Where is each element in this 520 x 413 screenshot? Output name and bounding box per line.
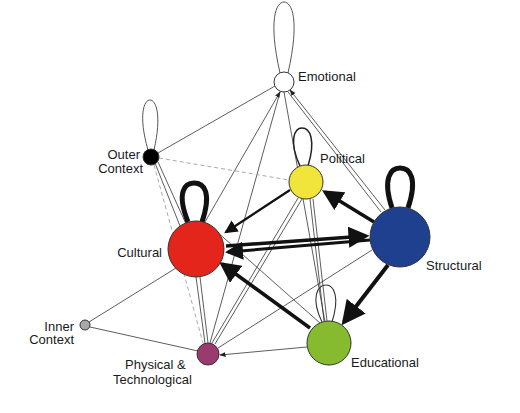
label-structural: Structural [426, 259, 482, 273]
network-diagram [0, 0, 520, 413]
edge-inner-physical [90, 327, 198, 351]
edge-structural-educational [344, 265, 388, 322]
label-physical-2: Technological [113, 373, 192, 387]
node-cultural[interactable] [168, 221, 224, 277]
self-loop-emotional [274, 2, 294, 73]
self-loop-cultural [182, 183, 206, 222]
label-inner-context-2: Context [20, 333, 74, 347]
edge-outer-cultural [155, 163, 180, 226]
edge-political-educational [310, 199, 324, 321]
edge-political-educational-b [313, 199, 327, 321]
edge-educational-physical [220, 347, 307, 355]
edge-outer-emotional [151, 86, 275, 157]
edge-outer-political [159, 158, 289, 180]
edge-structural-political [325, 192, 374, 222]
edge-emotional-physical [210, 92, 280, 343]
label-outer-context-1: Outer [98, 148, 140, 162]
node-emotional[interactable] [274, 72, 294, 92]
node-political[interactable] [289, 165, 323, 199]
thin-edges [89, 86, 385, 355]
node-inner-context[interactable] [80, 320, 90, 330]
node-structural[interactable] [370, 207, 430, 267]
label-emotional: Emotional [298, 70, 356, 84]
node-outer-context[interactable] [143, 149, 159, 165]
node-educational[interactable] [307, 321, 351, 365]
self-loop-educational [316, 285, 336, 322]
label-educational: Educational [351, 356, 419, 370]
edge-educational-cultural [222, 264, 310, 328]
label-physical-1: Physical & [125, 358, 186, 372]
edge-political-physical [212, 198, 298, 343]
node-physical-technological[interactable] [197, 343, 219, 365]
label-cultural: Cultural [100, 246, 162, 260]
edge-cultural-educational-thin [207, 223, 320, 323]
self-loop-structural [388, 168, 413, 208]
edge-cultural-emotional [205, 92, 280, 222]
self-loop-outer-context [143, 100, 158, 150]
label-political: Political [320, 152, 365, 166]
label-outer-context-2: Context [88, 162, 143, 176]
edge-inner-cultural [89, 268, 176, 322]
nodes [80, 72, 430, 365]
edge-political-cultural [226, 190, 290, 232]
